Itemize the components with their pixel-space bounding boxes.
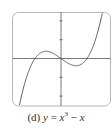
caption-eq: =: [48, 111, 60, 123]
caption-minus: −: [68, 111, 80, 123]
function-plot: [0, 0, 112, 112]
caption-var2: x: [80, 111, 85, 123]
caption-label: (d): [27, 111, 40, 123]
figure-caption: (d) y = x3 − x: [0, 110, 112, 123]
